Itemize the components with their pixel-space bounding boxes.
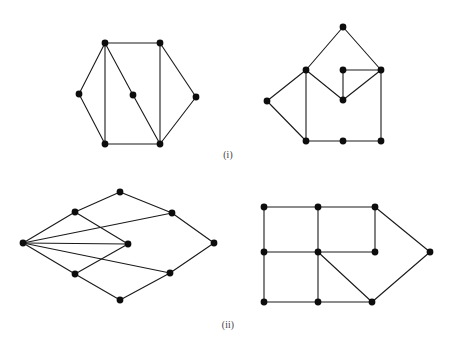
graph-vertex	[117, 189, 124, 196]
graph-vertex	[303, 67, 310, 74]
graph-vertex	[169, 210, 176, 217]
graph-vertex	[167, 270, 174, 277]
graph-edge	[375, 207, 430, 252]
graph-vertex	[130, 92, 137, 99]
figure-container: (i) (ii)	[0, 0, 455, 348]
graph-vertex	[378, 138, 385, 145]
hexagon-with-central-vertex	[76, 40, 200, 148]
graph-vertex	[261, 249, 268, 256]
graph-vertex	[117, 297, 124, 304]
graph-edge	[172, 213, 214, 243]
graph-vertex	[315, 204, 322, 211]
graph-edge	[23, 243, 170, 273]
graph-vertex	[340, 138, 347, 145]
graph-vertex	[102, 141, 109, 148]
graph-vertex	[72, 209, 79, 216]
graph-vertex	[72, 271, 79, 278]
graph-vertex	[340, 67, 347, 74]
graph-edge	[79, 94, 105, 144]
graph-vertex	[315, 249, 322, 256]
graph-edge	[372, 252, 430, 302]
caption-figure-ii: (ii)	[208, 320, 248, 330]
graph-vertex	[211, 240, 218, 247]
graph-edge	[23, 212, 75, 243]
graph-edge	[23, 243, 75, 274]
graph-vertex	[340, 24, 347, 31]
graph-edge	[306, 27, 343, 70]
graph-edge	[160, 43, 196, 97]
graph-edge	[133, 95, 160, 144]
graph-vertex	[261, 204, 268, 211]
edge-layer	[79, 43, 196, 144]
graph-edge	[267, 101, 306, 141]
graph-edge	[75, 212, 128, 244]
edge-layer	[264, 207, 430, 302]
graph-vertex	[340, 97, 347, 104]
edge-layer	[23, 192, 214, 300]
graph-edge	[306, 70, 343, 100]
graph-edge	[267, 70, 306, 101]
graph-vertex	[303, 138, 310, 145]
graph-vertex	[427, 249, 434, 256]
graph-edge	[160, 97, 196, 144]
graph-edge	[79, 43, 105, 94]
graph-vertex	[315, 299, 322, 306]
graph-vertex	[102, 40, 109, 47]
graph-vertex	[261, 299, 268, 306]
graph-edge	[120, 192, 172, 213]
fan-diamond-with-left-hub	[20, 189, 218, 304]
graph-vertex	[157, 141, 164, 148]
graph-edge	[23, 243, 128, 244]
graph-vertex	[372, 249, 379, 256]
grid-with-triangular-extension	[261, 204, 434, 306]
graph-vertex	[125, 241, 132, 248]
vertex-layer	[261, 204, 434, 306]
graph-vertex	[76, 91, 83, 98]
graph-vertex	[193, 94, 200, 101]
graph-edge	[170, 243, 214, 273]
edge-layer	[267, 27, 381, 141]
graph-edge	[75, 274, 120, 300]
graph-edge	[75, 244, 128, 274]
graph-edge	[120, 273, 170, 300]
caption-figure-i: (i)	[208, 150, 248, 160]
vertex-layer	[20, 189, 218, 304]
tilted-square-with-interior-vee	[264, 24, 385, 145]
graph-diagram-canvas	[0, 0, 455, 348]
vertex-layer	[76, 40, 200, 148]
graph-edge	[75, 192, 120, 212]
graph-vertex	[264, 98, 271, 105]
graph-vertex	[378, 67, 385, 74]
graph-vertex	[20, 240, 27, 247]
graph-edge	[343, 70, 381, 100]
graph-edge	[23, 213, 172, 243]
graph-edge	[343, 27, 381, 70]
graph-vertex	[157, 40, 164, 47]
graph-vertex	[372, 204, 379, 211]
graph-vertex	[369, 299, 376, 306]
graph-edge	[105, 43, 133, 95]
graph-edge	[318, 252, 372, 302]
